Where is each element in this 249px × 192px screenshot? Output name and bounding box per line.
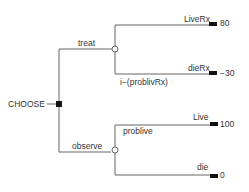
terminal-node-die-icon[interactable] bbox=[210, 174, 218, 178]
outcome-die-value: 0 bbox=[220, 170, 225, 180]
outcome-liverx-label: LiveRx bbox=[184, 14, 211, 24]
outcome-dierx-value: −30 bbox=[220, 68, 235, 78]
probability-observe-label: problive bbox=[123, 126, 153, 136]
outcome-dierx-label: dieRx bbox=[188, 63, 210, 73]
branch-treat-label: treat bbox=[78, 38, 96, 48]
chance-node-treat-icon[interactable] bbox=[112, 46, 118, 52]
decision-tree: CHOOSE treat LiveRx 80 dieRx −30 i−(prob… bbox=[0, 0, 249, 192]
decision-node-square-icon[interactable] bbox=[56, 101, 62, 107]
branch-observe-label: observe bbox=[72, 141, 103, 151]
outcome-die-label: die bbox=[197, 162, 209, 172]
chance-node-observe-icon[interactable] bbox=[112, 147, 118, 153]
terminal-node-liverx-icon[interactable] bbox=[209, 22, 217, 26]
outcome-liverx-value: 80 bbox=[220, 18, 230, 28]
terminal-node-dierx-icon[interactable] bbox=[209, 71, 217, 75]
decision-node-label: CHOOSE bbox=[8, 99, 45, 109]
probability-treat-label: i−(problivRx) bbox=[120, 77, 168, 87]
outcome-live-value: 100 bbox=[220, 119, 234, 129]
terminal-node-live-icon[interactable] bbox=[210, 122, 218, 126]
outcome-live-label: Live bbox=[193, 112, 209, 122]
